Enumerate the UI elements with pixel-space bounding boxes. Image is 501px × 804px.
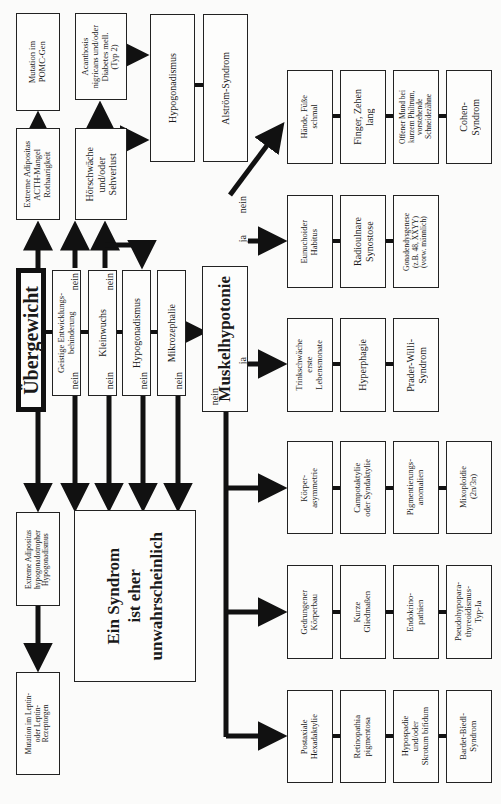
- row-prader-willi-item: Hyperphagie: [340, 318, 386, 412]
- node-label: Hörschwäche und/oder Sehverlust: [84, 147, 119, 201]
- node-label: Mixoploidie (2n/3n): [459, 466, 479, 508]
- row-pseudohypopara-syndrome: Pseudohypopara- thyreoidismus- Typ-Ia: [446, 565, 492, 659]
- row-mixoploidy-syndrome: Mixoploidie (2n/3n): [446, 441, 492, 534]
- no-label: nein: [173, 372, 184, 389]
- row-pseudohypopara-item: Endokrino- pathien: [393, 565, 439, 659]
- hub-yes-label-top: ja: [237, 235, 248, 242]
- node-label: Gedrungener Körperbau: [300, 590, 320, 634]
- root-label: Übergewicht: [20, 286, 43, 395]
- row-cohen-syndrome: Cohen- Syndrom: [446, 70, 492, 164]
- node-adipositas-hypogonadotropic: Extreme Adipositas hypogonadotropher Hyp…: [16, 512, 60, 606]
- criterion-label: Geistige Entwicklungs- behinderung: [57, 293, 77, 373]
- no-label: nein: [69, 273, 80, 290]
- row-pseudohypopara-item: Gedrungener Körperbau: [287, 565, 333, 659]
- no-label: nein: [138, 372, 149, 389]
- row-pseudohypopara-item: Kurze Gliedmaßen: [340, 565, 386, 659]
- node-label: Bardet-Biedl- Syndrom: [459, 713, 479, 760]
- node-label: Pseudohypopara- thyreoidismus- Typ-Ia: [454, 582, 483, 641]
- hub-no-label-bottom: nein: [209, 388, 220, 405]
- criterion-label: Mikrozephalie: [166, 304, 178, 362]
- node-label: Radioulnare Synostose: [352, 217, 375, 266]
- node-label: Ein Syndrom ist eher unwahrscheinlich: [103, 532, 167, 660]
- row-klinefelter-item: Radioulnare Synostose: [340, 195, 386, 288]
- node-label: Mutation im POMC-Gen: [28, 41, 48, 83]
- no-label: nein: [104, 273, 115, 290]
- row-prader-willi-syndrome: Prader-Willi- Syndrom: [393, 318, 439, 412]
- node-label: Gonadendysgenese (z.B. 48, XXYY) (vorw. …: [403, 213, 429, 271]
- node-acanthosis-diabetes: Acanthosis nigricans und/oder Diabetes m…: [75, 13, 127, 100]
- node-label: Eunuchoider Habitus: [300, 220, 320, 263]
- node-label: Trinkschwäche erste Lebensmonate: [295, 339, 324, 391]
- row-mixoploidy-item: Campotaktylie oder Syndaktylie: [340, 441, 386, 534]
- row-mixoploidy-item: Körper- asymmetrie: [287, 441, 333, 534]
- node-label: Körper- asymmetrie: [300, 468, 320, 508]
- row-klinefelter-item: Eunuchoider Habitus: [287, 195, 333, 288]
- node-leptin-mutation: Mutation im Leptin- oder Leptin- Rezepto…: [16, 672, 60, 775]
- node-hearing-vision-loss: Hörschwäche und/oder Sehverlust: [75, 128, 127, 220]
- node-label: Offener Mund bei kurzem Philtrum, vorste…: [399, 90, 434, 144]
- node-label: Hände, Füße schmal: [300, 95, 320, 138]
- node-label: Endokrino- pathien: [406, 593, 426, 632]
- node-label: Pigmentierungs- anomalien: [406, 459, 426, 515]
- node-label: Finger, Zehen lang: [352, 89, 375, 145]
- node-label: Kurze Gliedmaßen: [353, 591, 373, 633]
- row-prader-willi-item: Trinkschwäche erste Lebensmonate: [287, 318, 333, 412]
- node-adipositas-acth: Extreme Adipositas ACTH-Mangel Rothaarig…: [16, 128, 60, 220]
- hub-label: Muskelhypotonie: [214, 276, 235, 402]
- criterion-label: Hypogonadismus: [131, 298, 143, 368]
- node-label: Hypogonadismus: [167, 53, 179, 123]
- node-label: Prader-Willi- Syndrom: [405, 339, 428, 392]
- node-label: Hypospadie und/oder Skrotum bifidum: [401, 707, 430, 765]
- node-label: Hyperphagie: [357, 339, 369, 391]
- row-bardet-biedl-syndrome: Bardet-Biedl- Syndrom: [446, 690, 492, 783]
- row-bardet-biedl-item: Retinopathia pigmentosa: [340, 690, 386, 783]
- row-cohen-item: Offener Mund bei kurzem Philtrum, vorste…: [393, 70, 439, 164]
- node-alstroem-syndrome: Alström-Syndrom: [203, 14, 248, 162]
- node-label: Postaxiale Hexadaktylie: [300, 714, 320, 759]
- node-label: Extreme Adipositas ACTH-Mangel Rothaarig…: [23, 141, 52, 208]
- criterion-label: Kleinwuchs: [97, 309, 109, 357]
- no-label: nein: [104, 372, 115, 389]
- no-label: nein: [69, 372, 80, 389]
- root-node-uebergewicht: Übergewicht: [16, 268, 46, 412]
- node-label: Extreme Adipositas hypogonadotropher Hyp…: [25, 530, 51, 589]
- node-hypogonadism-top: Hypogonadismus: [150, 14, 195, 162]
- hub-yes-label-bottom: ja: [237, 357, 248, 364]
- row-klinefelter-item: Gonadendysgenese (z.B. 48, XXYY) (vorw. …: [393, 195, 439, 288]
- row-cohen-item: Finger, Zehen lang: [340, 70, 386, 164]
- node-label: Campotaktylie oder Syndaktylie: [353, 459, 373, 517]
- row-bardet-biedl-item: Hypospadie und/oder Skrotum bifidum: [393, 690, 439, 783]
- row-mixoploidy-item: Pigmentierungs- anomalien: [393, 441, 439, 534]
- node-label: Cohen- Syndrom: [458, 99, 481, 136]
- row-cohen-item: Hände, Füße schmal: [287, 70, 333, 164]
- node-label: Acanthosis nigricans und/oder Diabetes m…: [81, 25, 120, 89]
- row-bardet-biedl-item: Postaxiale Hexadaktylie: [287, 690, 333, 783]
- node-pomc-mutation: Mutation im POMC-Gen: [16, 13, 60, 111]
- node-syndrome-unlikely: Ein Syndrom ist eher unwahrscheinlich: [74, 510, 196, 682]
- node-label: Retinopathia pigmentosa: [353, 715, 373, 758]
- hub-no-label-top: nein: [237, 196, 248, 213]
- node-label: Mutation im Leptin- oder Leptin- Rezepto…: [25, 693, 51, 754]
- node-label: Alström-Syndrom: [220, 52, 232, 125]
